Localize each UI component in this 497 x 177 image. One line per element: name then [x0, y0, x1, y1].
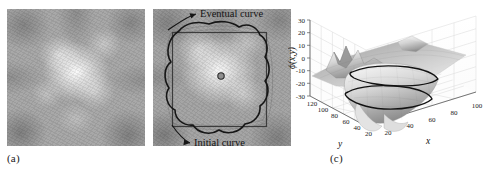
panel-a-caption: (a): [7, 152, 20, 164]
eventual-curve-blob: [165, 22, 269, 134]
image-grain-texture-a: [7, 9, 145, 146]
y-tick-3: 60: [343, 118, 351, 126]
z-tick-2: 10: [298, 42, 306, 50]
y-tick-5: 20: [365, 130, 373, 138]
x-tick-0: 20: [385, 129, 393, 137]
initial-curve-annotation: Initial curve: [150, 118, 310, 158]
y-tick-0: 120: [307, 100, 318, 108]
x-tick-3: 80: [451, 109, 459, 117]
z-tick-1: 20: [298, 29, 306, 37]
y-tick-1: 100: [318, 106, 329, 114]
eventual-curve-annotation: Eventual curve: [150, 0, 310, 34]
z-tick-0: 30: [298, 17, 306, 25]
panel-c-surface-plot: 30 20 10 0 -10 -20 -30 ϕ(x,y) 120 100 80…: [288, 2, 497, 152]
z-tick-3: 0: [302, 55, 306, 63]
surface-plot-svg: 30 20 10 0 -10 -20 -30 ϕ(x,y) 120 100 80…: [288, 2, 497, 152]
x-axis-title: x: [425, 136, 431, 146]
x-tick-2: 60: [429, 116, 437, 124]
z-tick-5: -20: [296, 80, 306, 88]
y-tick-2: 80: [331, 112, 339, 120]
y-tick-4: 40: [354, 124, 362, 132]
panel-a-image: [7, 9, 145, 146]
y-axis-title: y: [337, 139, 343, 149]
z-tick-4: -10: [296, 67, 306, 75]
z-axis-title: ϕ(x,y): [288, 47, 298, 69]
figure-container: (a) Eventual curve Initial curve: [0, 0, 497, 177]
initial-curve-label: Initial curve: [194, 137, 245, 148]
z-axis: 30 20 10 0 -10 -20 -30 ϕ(x,y): [288, 17, 310, 101]
eventual-curve-label: Eventual curve: [200, 8, 264, 19]
panel-c-caption: (c): [330, 152, 343, 164]
x-tick-4: 100: [472, 102, 483, 110]
x-tick-1: 40: [407, 122, 415, 130]
center-marker-icon: [218, 73, 224, 79]
z-tick-6: -30: [296, 93, 306, 101]
initial-curve-square: [173, 33, 267, 127]
